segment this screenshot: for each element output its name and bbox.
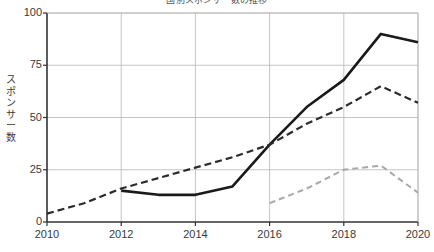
x-tick-2014: 2014 (172, 228, 218, 240)
dark-dashed-series (47, 86, 418, 213)
plot-area (0, 0, 434, 252)
data-series-layer (47, 34, 418, 214)
x-tick-2016: 2016 (247, 228, 293, 240)
line-chart: 国別スポンサー数の推移 ス ポ ン サ ー 数 0255075100 20102… (0, 0, 434, 252)
x-tick-2012: 2012 (98, 228, 144, 240)
axis-tickmarks (43, 13, 418, 226)
x-tick-2018: 2018 (321, 228, 367, 240)
gridlines (47, 13, 418, 222)
x-tick-2020: 2020 (395, 228, 434, 240)
x-tick-2010: 2010 (24, 228, 70, 240)
